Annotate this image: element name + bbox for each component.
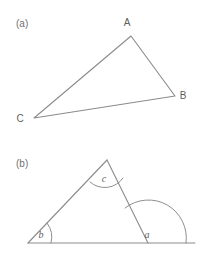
geometry-figure: (a) A B C (b) c b a bbox=[0, 0, 206, 253]
angle-label-b: b bbox=[39, 229, 44, 240]
panel-b: (b) c b a bbox=[16, 158, 195, 243]
panel-a-label: (a) bbox=[16, 18, 28, 29]
angle-arc-a bbox=[125, 200, 186, 243]
vertex-label-b: B bbox=[180, 90, 187, 101]
panel-a: (a) A B C bbox=[16, 17, 187, 124]
figure-canvas: (a) A B C (b) c b a bbox=[0, 0, 206, 253]
angle-label-a: a bbox=[145, 229, 150, 240]
vertex-label-c: C bbox=[16, 113, 23, 124]
triangle-abc bbox=[34, 36, 175, 118]
triangle-b-right-side bbox=[107, 160, 148, 243]
panel-b-label: (b) bbox=[16, 158, 28, 169]
angle-arc-c bbox=[90, 178, 123, 188]
angle-arc-b bbox=[47, 223, 52, 243]
angle-label-c: c bbox=[102, 173, 107, 184]
vertex-label-a: A bbox=[124, 17, 131, 28]
